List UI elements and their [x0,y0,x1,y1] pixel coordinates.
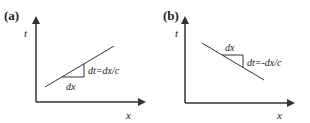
diagram-canvas: (a) t x dx dt=dx/c (b) t x dx dt=-dx/c [0,0,310,123]
x-axis-label-a: x [125,109,131,121]
slope-label-a: dt=dx/c [88,65,120,76]
t-axis-label-a: t [24,27,28,39]
panel-b-label: (b) [163,8,179,23]
x-axis-label-b: x [276,109,282,121]
slope-label-b: dt=-dx/c [247,57,282,68]
panel-b: (b) t x dx dt=-dx/c [163,8,293,121]
t-axis-label-b: t [175,27,179,39]
dx-label-b: dx [225,42,235,53]
panel-a: (a) t x dx dt=dx/c [4,8,144,121]
dx-label-a: dx [66,81,76,92]
panel-a-label: (a) [4,8,19,23]
